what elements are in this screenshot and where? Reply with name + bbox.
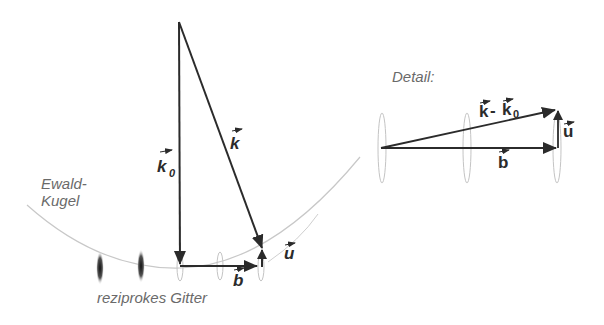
ewald-sphere-arc <box>27 157 360 268</box>
k-arrow <box>179 22 262 248</box>
detail-label-u: u <box>563 122 574 141</box>
label-b: b <box>233 268 244 290</box>
svg-text:b: b <box>498 153 508 172</box>
lattice-point-dark <box>137 249 145 283</box>
ewald-label-line1: Ewald- <box>41 175 87 192</box>
detail-label-k-minus-k0: k - k 0 <box>479 99 519 121</box>
svg-text:0: 0 <box>513 108 519 120</box>
svg-text:k: k <box>502 100 512 119</box>
svg-text:-: - <box>490 101 496 120</box>
detail-label-b: b <box>498 150 509 172</box>
svg-text:k: k <box>157 157 168 176</box>
k0-arrow <box>179 22 180 264</box>
lattice-point-dark <box>96 251 104 285</box>
ewald-construction-diagram: k 0 k b u Ewald- Kugel reziprokes Gitter… <box>0 0 604 325</box>
svg-text:u: u <box>284 244 295 263</box>
svg-text:0: 0 <box>169 167 176 179</box>
reciprocal-lattice-label: reziprokes Gitter <box>97 289 208 306</box>
wave-vectors <box>179 22 262 267</box>
svg-text:k: k <box>479 102 489 121</box>
svg-text:b: b <box>233 271 243 290</box>
svg-text:u: u <box>563 122 573 141</box>
label-u: u <box>284 243 295 263</box>
ewald-label-line2: Kugel <box>41 192 80 209</box>
svg-text:k: k <box>230 134 241 153</box>
label-k0: k 0 <box>157 150 176 179</box>
detail-k-minus-k0-arrow <box>381 110 555 148</box>
detail-inset: Detail: k - k 0 b u <box>378 68 574 183</box>
label-k: k <box>230 129 242 153</box>
detail-label: Detail: <box>392 68 435 85</box>
